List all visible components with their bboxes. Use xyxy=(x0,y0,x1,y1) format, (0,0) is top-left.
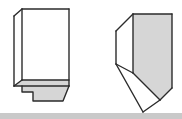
left-solid-left-side-face xyxy=(14,9,22,86)
isometric-solids-drawing xyxy=(0,0,182,119)
footer-band xyxy=(0,113,182,119)
left-solid xyxy=(14,9,69,101)
left-solid-base-front-edge-face xyxy=(14,80,69,86)
left-solid-front-face xyxy=(22,9,69,80)
figure-container: Two isometric solid shapes Technical lin… xyxy=(0,0,182,119)
